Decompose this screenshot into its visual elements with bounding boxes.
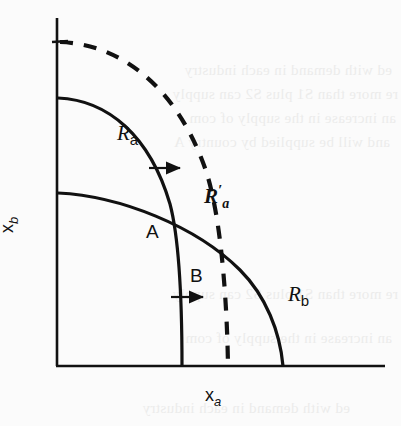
curve-label-ra-prime-subscript: a (222, 196, 229, 211)
curve-label-ra: Ra (117, 123, 138, 144)
point-label-a: A (146, 222, 159, 241)
figure-drawing (0, 0, 401, 426)
curve-label-ra-prime-base: R (204, 184, 218, 208)
x-axis-label-subscript: a (214, 394, 221, 409)
point-label-b: B (190, 266, 203, 285)
y-axis-label-subscript: b (6, 217, 21, 224)
curve-label-ra-subscript: a (130, 131, 138, 148)
curve-label-rb-subscript: b (301, 292, 309, 309)
y-axis-label-base: x (0, 224, 17, 233)
curve-label-rb-base: R (288, 282, 301, 306)
curve-label-ra-prime: R′a (204, 186, 229, 207)
y-axis-label: xb (0, 217, 16, 233)
curve-label-ra-base: R (117, 121, 130, 145)
figure-container: ed with demand in each industry re more … (0, 0, 401, 426)
x-axis-label-base: x (205, 385, 214, 405)
x-axis-label: xa (205, 386, 221, 404)
curve-ra-prime (60, 42, 228, 366)
curve-label-rb: Rb (288, 284, 309, 305)
curve-rb (58, 193, 283, 366)
